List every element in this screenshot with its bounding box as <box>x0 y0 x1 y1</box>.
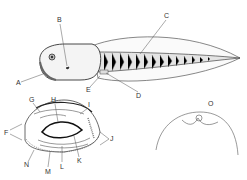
label-l: L <box>60 163 64 170</box>
label-k: K <box>77 157 82 164</box>
label-d: D <box>136 92 141 99</box>
label-i: I <box>88 101 90 108</box>
label-n: N <box>24 161 29 168</box>
label-e: E <box>86 86 91 93</box>
label-m: M <box>45 168 51 175</box>
label-b: B <box>57 16 62 23</box>
spiracle-view <box>156 112 238 155</box>
label-c: C <box>164 12 169 19</box>
label-f: F <box>4 129 8 136</box>
label-o: O <box>208 100 213 107</box>
label-j: J <box>110 135 114 142</box>
label-a: A <box>16 79 21 86</box>
tadpole-diagram <box>0 0 247 180</box>
tadpole-body <box>40 44 101 80</box>
pupil <box>51 56 53 58</box>
label-g: G <box>29 96 34 103</box>
label-h: H <box>51 96 56 103</box>
